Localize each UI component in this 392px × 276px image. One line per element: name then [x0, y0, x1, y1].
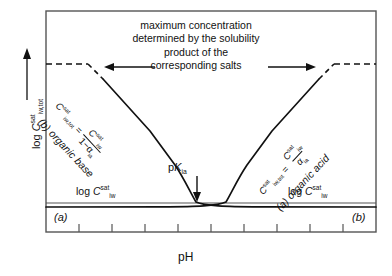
- plot-frame: [46, 11, 376, 232]
- plot-canvas: [0, 0, 392, 276]
- figure-solubility-vs-ph: maximum concentration determined by the …: [0, 0, 392, 276]
- y-axis-arrow-icon: [23, 48, 31, 100]
